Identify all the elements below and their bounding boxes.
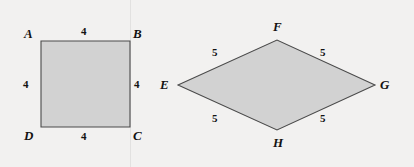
vertex-label-d: D: [24, 129, 33, 142]
side-label-hg: 5: [320, 113, 326, 124]
side-label-ab: 4: [81, 26, 87, 37]
vertex-label-f: F: [273, 20, 282, 33]
side-label-bc: 4: [134, 79, 140, 90]
vertex-label-h: H: [273, 136, 283, 149]
square-abcd-shape: [41, 41, 130, 127]
side-label-fg: 5: [320, 47, 326, 58]
rhombus-efgh-shape: [178, 40, 375, 130]
geometry-figure-canvas: A B C D 4 4 4 4 E F G H 5 5 5 5: [0, 0, 414, 167]
vertex-label-a: A: [24, 27, 33, 40]
side-label-dc: 4: [81, 131, 87, 142]
vertex-label-e: E: [160, 78, 169, 91]
shapes-svg: [0, 0, 414, 167]
vertex-label-g: G: [380, 78, 389, 91]
side-label-eh: 5: [212, 113, 218, 124]
side-label-ef: 5: [212, 47, 218, 58]
vertex-label-b: B: [133, 27, 142, 40]
vertex-label-c: C: [133, 129, 142, 142]
side-label-ad: 4: [23, 79, 29, 90]
